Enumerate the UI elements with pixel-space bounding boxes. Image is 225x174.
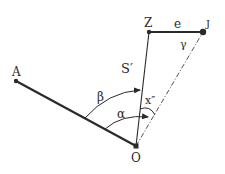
- label-s-prime: S′: [121, 61, 133, 76]
- label-a: A: [11, 65, 21, 79]
- angle-diagram: A Z e J γ S′ β α x″ O: [0, 0, 225, 174]
- angle-arc-alpha: [105, 117, 148, 130]
- label-x-double-prime: x″: [145, 94, 155, 107]
- point-j: [200, 29, 206, 35]
- point-z: [147, 30, 151, 34]
- label-o: O: [131, 151, 141, 165]
- label-z: Z: [144, 16, 152, 30]
- segment-oz: [136, 32, 149, 146]
- segment-oj: [136, 32, 203, 146]
- label-j: J: [205, 18, 210, 29]
- point-o: [134, 144, 139, 149]
- label-beta: β: [97, 90, 104, 104]
- label-alpha: α: [117, 107, 125, 121]
- point-a: [14, 79, 18, 83]
- label-gamma: γ: [180, 38, 187, 51]
- angle-arc-x: [140, 108, 155, 115]
- label-e: e: [174, 17, 181, 31]
- angle-arc-beta: [85, 90, 140, 118]
- diagram-canvas: A Z e J γ S′ β α x″ O: [0, 0, 225, 174]
